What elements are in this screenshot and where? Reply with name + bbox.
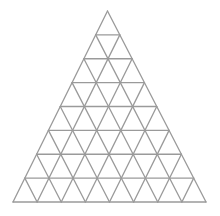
triangular-grid-diagram: [0, 0, 220, 216]
grid-lines: [13, 11, 206, 202]
right-parallel-grid-line: [96, 35, 182, 202]
right-parallel-grid-line: [72, 83, 134, 202]
left-parallel-grid-line: [85, 83, 144, 202]
right-parallel-grid-line: [25, 178, 37, 202]
left-parallel-grid-line: [182, 178, 194, 202]
left-parallel-grid-line: [37, 35, 120, 202]
